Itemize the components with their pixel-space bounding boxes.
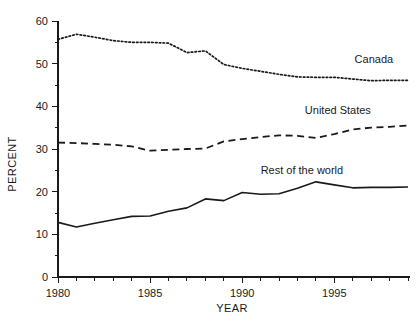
y-tick-label: 40 — [36, 100, 48, 112]
y-axis-title: PERCENT — [6, 136, 18, 191]
x-tick-label: 1980 — [46, 287, 70, 299]
x-axis-title: YEAR — [216, 302, 248, 314]
y-tick-label: 10 — [36, 228, 48, 240]
x-tick-label: 1990 — [230, 287, 254, 299]
y-tick-label: 50 — [36, 58, 48, 70]
series-label-canada: Canada — [355, 53, 394, 65]
chart-figure: 0102030405060 1980198519901995 CanadaUni… — [0, 0, 420, 322]
chart-background — [0, 0, 420, 322]
y-tick-label: 0 — [42, 271, 48, 283]
series-label-united-states: United States — [305, 104, 372, 116]
y-tick-label: 60 — [36, 15, 48, 27]
line-chart: 0102030405060 1980198519901995 CanadaUni… — [0, 0, 420, 322]
series-label-rest-of-the-world: Rest of the world — [261, 164, 344, 176]
x-tick-label: 1985 — [138, 287, 162, 299]
x-tick-label: 1995 — [322, 287, 346, 299]
y-tick-label: 20 — [36, 186, 48, 198]
y-tick-label: 30 — [36, 143, 48, 155]
